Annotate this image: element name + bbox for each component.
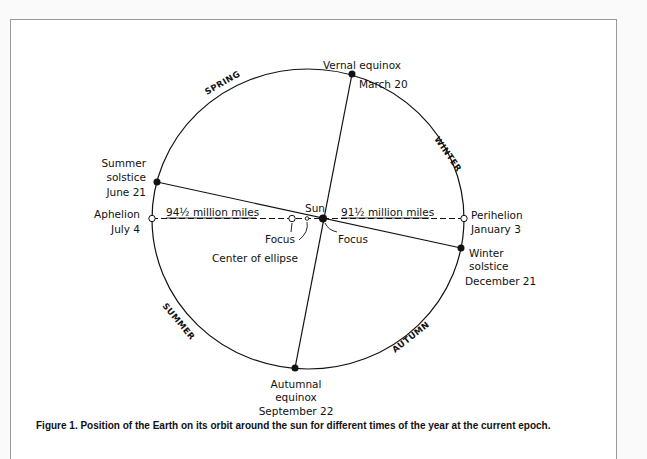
perihelion-label: Perihelion bbox=[471, 209, 523, 221]
sun-label: Sun bbox=[305, 202, 325, 214]
center-pointer bbox=[299, 222, 307, 240]
autumnal-equinox-date: September 22 bbox=[259, 405, 334, 417]
season-winter-label: WINTER bbox=[432, 134, 464, 173]
aphelion-distance-label: 94½ million miles bbox=[166, 206, 259, 218]
focus-right-pointer bbox=[325, 223, 337, 232]
vernal-equinox-label: Vernal equinox bbox=[323, 59, 401, 71]
summer-solstice-label-1: Summer bbox=[101, 157, 146, 169]
focus-right-label: Focus bbox=[338, 233, 368, 245]
winter-solstice-label-1: Winter bbox=[469, 247, 504, 259]
empty-focus-marker bbox=[289, 215, 295, 221]
season-spring-label: SPRING bbox=[203, 68, 242, 96]
winter-solstice-label-2: solstice bbox=[469, 260, 509, 272]
focus-left-label: Focus bbox=[265, 233, 295, 245]
perihelion-distance-label: 91½ million miles bbox=[341, 206, 434, 218]
summer-solstice-date: June 21 bbox=[105, 186, 146, 198]
season-autumn-label: AUTUMN bbox=[390, 319, 431, 354]
winter-solstice-dot bbox=[458, 245, 465, 252]
sun-dot bbox=[319, 215, 327, 223]
perihelion-marker bbox=[461, 215, 467, 221]
aphelion-marker bbox=[149, 215, 155, 221]
summer-solstice-label-2: solstice bbox=[106, 171, 146, 183]
season-summer-label: SUMMER bbox=[160, 301, 197, 342]
summer-solstice-dot bbox=[154, 179, 161, 186]
aphelion-label: Aphelion bbox=[94, 208, 140, 220]
winter-solstice-date: December 21 bbox=[465, 275, 536, 287]
focus-left-pointer bbox=[291, 223, 292, 232]
vernal-equinox-dot bbox=[349, 71, 356, 78]
autumnal-equinox-dot bbox=[292, 365, 299, 372]
autumnal-equinox-label-2: equinox bbox=[275, 391, 317, 403]
vernal-equinox-date: March 20 bbox=[359, 78, 408, 90]
center-of-ellipse-marker bbox=[305, 217, 309, 221]
perihelion-date: January 3 bbox=[470, 223, 521, 235]
center-of-ellipse-label: Center of ellipse bbox=[212, 252, 298, 264]
figure-caption: Figure 1. Position of the Earth on its o… bbox=[36, 420, 551, 431]
autumnal-equinox-label-1: Autumnal bbox=[271, 378, 322, 390]
aphelion-date: July 4 bbox=[110, 223, 140, 235]
